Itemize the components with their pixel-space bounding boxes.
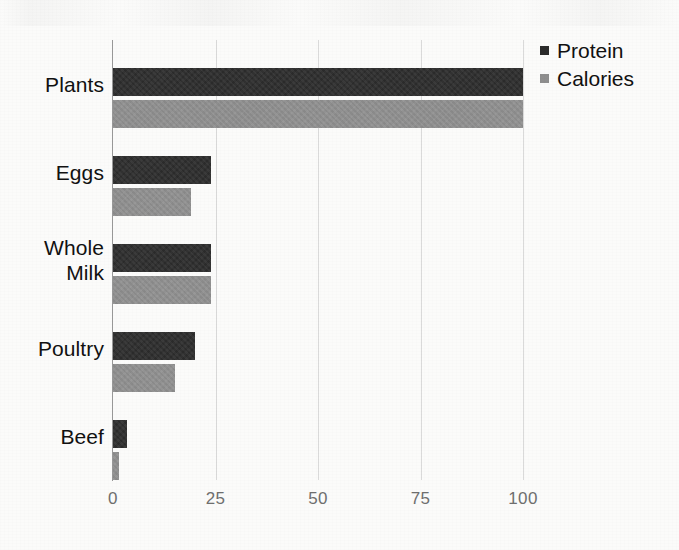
bar-chart: PlantsEggsWholeMilkPoultryBeef 025507510… bbox=[0, 0, 679, 550]
square-marker-gray bbox=[540, 74, 549, 83]
bar-group bbox=[113, 128, 523, 216]
x-axis-tick-labels: 0255075100 bbox=[0, 489, 679, 513]
bar-group bbox=[113, 304, 523, 392]
legend-item-protein[interactable]: Protein bbox=[540, 36, 679, 64]
bar-group bbox=[113, 216, 523, 304]
bar-group bbox=[113, 40, 523, 128]
bar-calories bbox=[113, 276, 211, 304]
bar-calories bbox=[113, 364, 175, 392]
legend-label: Calories bbox=[557, 67, 634, 90]
bar-calories bbox=[113, 100, 523, 128]
bar-protein bbox=[113, 244, 211, 272]
x-tick-label: 100 bbox=[508, 489, 537, 509]
bar-protein bbox=[113, 156, 211, 184]
square-marker-dark bbox=[540, 46, 549, 55]
x-tick-label: 25 bbox=[206, 489, 226, 509]
y-axis-line bbox=[112, 40, 113, 481]
category-label: Plants bbox=[4, 72, 104, 97]
bar-group bbox=[113, 392, 523, 480]
bar-calories bbox=[113, 452, 119, 480]
bar-protein bbox=[113, 68, 523, 96]
legend-item-calories[interactable]: Calories bbox=[540, 64, 679, 92]
gridline bbox=[523, 40, 524, 480]
x-tick-label: 0 bbox=[108, 489, 118, 509]
bar-protein bbox=[113, 420, 127, 448]
x-tick-label: 75 bbox=[411, 489, 431, 509]
category-label: Beef bbox=[4, 424, 104, 449]
chart-legend: ProteinCalories bbox=[540, 36, 679, 92]
bar-protein bbox=[113, 332, 195, 360]
legend-label: Protein bbox=[557, 39, 624, 62]
plot-area bbox=[113, 40, 523, 480]
bar-calories bbox=[113, 188, 191, 216]
category-label: Poultry bbox=[4, 336, 104, 361]
category-label: Eggs bbox=[4, 160, 104, 185]
category-axis-labels: PlantsEggsWholeMilkPoultryBeef bbox=[0, 40, 104, 480]
x-tick-label: 50 bbox=[308, 489, 328, 509]
category-label: WholeMilk bbox=[4, 235, 104, 285]
